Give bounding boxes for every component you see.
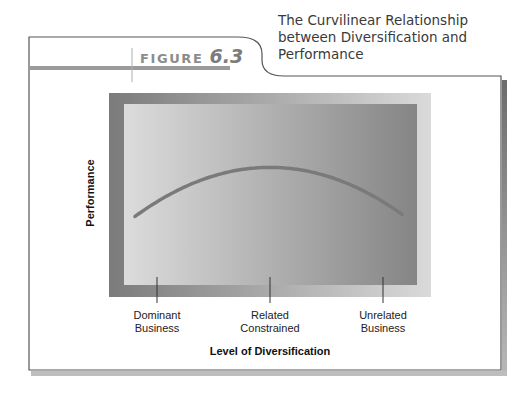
figure-label-number: 6.3 <box>209 45 243 67</box>
x-axis-label: Level of Diversification <box>210 345 330 357</box>
frame-shadow-right <box>502 80 507 376</box>
figure-title-line-1: The Curvilinear Relationship <box>278 12 528 29</box>
x-tick-label-dominant-business: Dominant Business <box>102 309 212 335</box>
header-accent-bar <box>29 66 230 70</box>
frame-shadow-bottom <box>31 371 507 376</box>
x-tick-label-related-constrained: Related Constrained <box>215 309 325 335</box>
x-tick-label-line: Unrelated <box>328 309 438 322</box>
x-tick-label-line: Dominant <box>102 309 212 322</box>
figure-label-word: FIGURE <box>140 51 203 66</box>
figure-label: FIGURE 6.3 <box>140 45 243 65</box>
y-axis-label: Performance <box>84 159 96 226</box>
x-tick-label-line: Business <box>328 322 438 335</box>
figure-title-line-2: between Diversification and <box>278 29 528 46</box>
x-tick-label-line: Related <box>215 309 325 322</box>
figure-title: The Curvilinear Relationship between Div… <box>278 12 528 63</box>
x-tick-label-line: Business <box>102 322 212 335</box>
x-tick-label-unrelated-business: Unrelated Business <box>328 309 438 335</box>
x-tick-label-line: Constrained <box>215 322 325 335</box>
figure-title-line-3: Performance <box>278 46 528 63</box>
